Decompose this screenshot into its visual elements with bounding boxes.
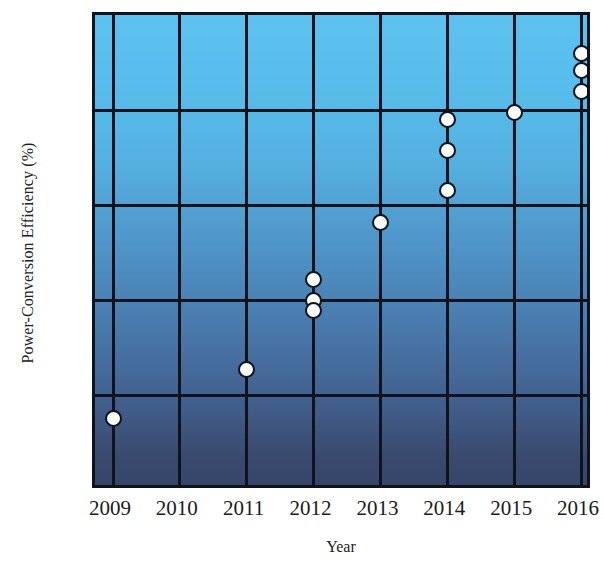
x-gridline [446,15,449,485]
x-axis-title: Year [92,538,590,556]
x-gridline [379,15,382,485]
y-gridline [95,394,587,397]
y-gridline [95,204,587,207]
x-tick-label: 2016 [523,496,604,520]
data-point-marker [573,62,590,79]
data-point-marker [105,410,122,427]
y-gridline [95,299,587,302]
data-point-marker [573,83,590,100]
x-gridline [513,15,516,485]
y-axis-title: Power-Conversion Efficiency (%) [19,13,37,493]
data-point-marker [439,142,456,159]
data-point-marker [439,111,456,128]
data-point-marker [573,45,590,62]
scatter-chart-figure: Power-Conversion Efficiency (%) 20092010… [0,0,604,564]
data-point-marker [305,271,322,288]
data-point-marker [238,361,255,378]
data-point-marker [305,302,322,319]
x-gridline [245,15,248,485]
data-point-marker [506,104,523,121]
data-point-marker [439,182,456,199]
x-gridline [178,15,181,485]
data-point-marker [372,214,389,231]
x-gridline [312,15,315,485]
plot-area [92,12,590,488]
